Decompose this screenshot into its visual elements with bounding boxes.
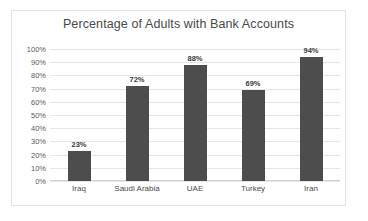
y-axis-tick-label: 90% (12, 58, 46, 67)
y-axis-tick-label: 30% (12, 137, 46, 146)
y-axis-tick-labels: 100%90%80%70%60%50%40%30%20%10%0% (12, 49, 46, 181)
bar[interactable] (184, 65, 207, 181)
y-axis-tick-label: 70% (12, 84, 46, 93)
y-axis-tick-label: 50% (12, 111, 46, 120)
x-axis-category-label: Turkey (224, 184, 282, 193)
bar-value-label: 72% (108, 75, 166, 84)
bar-slot: 88% (166, 49, 224, 181)
bar[interactable] (68, 151, 91, 181)
x-axis-category-label: Iran (282, 184, 340, 193)
gridline (50, 181, 340, 182)
chart-figure: Percentage of Adults with Bank Accounts … (11, 10, 346, 206)
y-axis-tick-label: 20% (12, 150, 46, 159)
x-axis-category-label: Iraq (50, 184, 108, 193)
y-axis-tick-label: 40% (12, 124, 46, 133)
chart-title: Percentage of Adults with Bank Accounts (12, 17, 345, 31)
bar-slot: 23% (50, 49, 108, 181)
y-axis-tick-label: 100% (12, 45, 46, 54)
x-axis-category-label: UAE (166, 184, 224, 193)
bar-series: 23%72%88%69%94% (50, 49, 340, 181)
bar-value-label: 69% (224, 79, 282, 88)
bar[interactable] (242, 90, 265, 181)
bar-slot: 94% (282, 49, 340, 181)
bar-slot: 69% (224, 49, 282, 181)
x-axis-category-label: Saudi Arabia (108, 184, 166, 193)
bar-value-label: 94% (282, 46, 340, 55)
bar[interactable] (300, 57, 323, 181)
bar[interactable] (126, 86, 149, 181)
y-axis-tick-label: 80% (12, 71, 46, 80)
y-axis-tick-label: 0% (12, 177, 46, 186)
bar-value-label: 88% (166, 54, 224, 63)
bar-slot: 72% (108, 49, 166, 181)
y-axis-tick-label: 10% (12, 163, 46, 172)
bar-value-label: 23% (50, 140, 108, 149)
y-axis-tick-label: 60% (12, 97, 46, 106)
x-axis-category-labels: IraqSaudi ArabiaUAETurkeyIran (50, 184, 340, 193)
